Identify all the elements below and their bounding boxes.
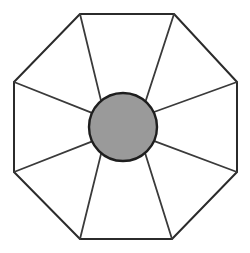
octagon-diagram-canvas [0, 0, 250, 253]
center-circle [89, 93, 157, 161]
